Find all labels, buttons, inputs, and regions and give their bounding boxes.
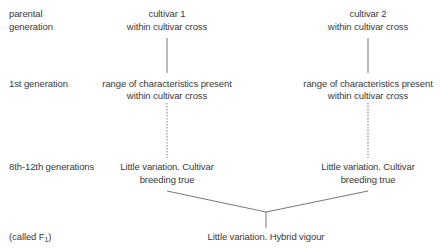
right-later-gen-line2: breeding true [341,174,396,186]
label-parental: parental [9,8,43,20]
connector-lines [0,0,440,249]
right-cross-line [266,191,368,212]
cultivar-2-sublabel: within cultivar cross [328,21,408,33]
left-later-gen-line2: breeding true [140,174,195,186]
cultivar-2-label: cultivar 2 [349,8,386,20]
f1-suffix: ) [48,231,51,242]
left-first-gen-line1: range of characteristics present [102,78,231,90]
right-later-gen-line1: Little variation. Cultivar [321,161,415,173]
label-generation: generation [9,21,53,33]
left-cross-line [167,191,266,212]
hybrid-vigour-label: Little variation. Hybrid vigour [208,231,325,243]
label-later-generations: 8th-12th generations [9,161,94,173]
left-later-gen-line1: Little variation. Cultivar [120,161,214,173]
left-first-gen-line2: within cultivar cross [127,90,207,102]
label-called-f1: (called F1) [9,231,51,243]
label-first-generation: 1st generation [9,78,68,90]
cultivar-1-label: cultivar 1 [148,8,185,20]
f1-prefix: (called F [9,231,45,242]
right-first-gen-line1: range of characteristics present [303,78,432,90]
cultivar-1-sublabel: within cultivar cross [127,21,207,33]
right-first-gen-line2: within cultivar cross [328,90,408,102]
